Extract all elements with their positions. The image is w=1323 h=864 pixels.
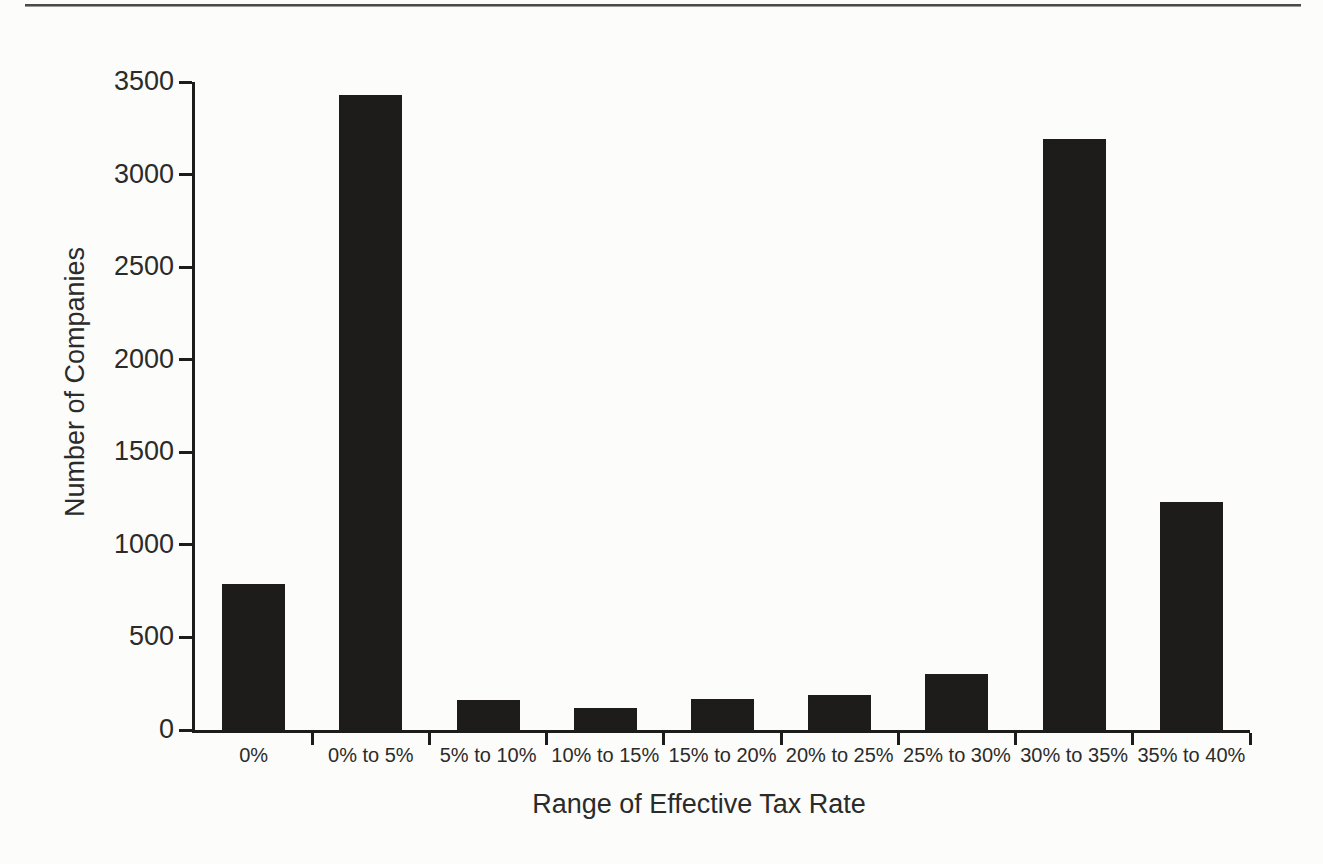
plot-area: 05001000150020002500300035000%0% to 5%5%… [192,82,1250,733]
bar-0% to 5% [339,95,402,730]
x-axis-title: Range of Effective Tax Rate [170,789,1228,820]
y-axis-tick-label: 3500 [114,68,174,95]
y-axis-tick-label: 0 [159,716,174,743]
y-axis-tick-label: 3000 [114,161,174,188]
bar-25% to 30% [925,674,988,730]
bar-15% to 20% [691,699,754,730]
y-axis-tick [179,636,192,639]
x-axis-category-label: 25% to 30% [903,744,1011,767]
y-axis-tick [179,173,192,176]
y-axis-tick [179,729,192,732]
x-axis-tick [1131,733,1134,745]
page-top-rule [25,4,1301,7]
bar-20% to 25% [808,695,871,730]
x-axis-tick [897,733,900,745]
y-axis-tick [179,543,192,546]
x-axis-tick [311,733,314,745]
bar-30% to 35% [1043,139,1106,730]
bar-10% to 15% [574,708,637,730]
y-axis-title: Number of Companies [60,247,91,517]
bar-0% [222,584,285,730]
x-axis-tick [428,733,431,745]
x-axis-category-label: 15% to 20% [669,744,777,767]
x-axis-tick [780,733,783,745]
x-axis-category-label: 30% to 35% [1020,744,1128,767]
y-axis-tick-label: 1500 [114,438,174,465]
y-axis-tick-label: 2000 [114,346,174,373]
x-axis-category-label: 0% to 5% [328,744,414,767]
x-axis-tick [1014,733,1017,745]
y-axis-tick [179,358,192,361]
x-axis-tick [662,733,665,745]
y-axis-tick [179,451,192,454]
x-axis-category-label: 20% to 25% [786,744,894,767]
x-axis-category-label: 0% [239,744,268,767]
y-axis-tick [179,266,192,269]
bar-35% to 40% [1160,502,1223,730]
y-axis-tick [179,81,192,84]
x-axis-category-label: 35% to 40% [1137,744,1245,767]
y-axis-tick-label: 1000 [114,531,174,558]
bar-5% to 10% [457,700,520,730]
y-axis-tick-label: 500 [129,623,174,650]
x-axis-tick [1249,733,1252,745]
x-axis-tick [545,733,548,745]
x-axis-category-label: 10% to 15% [551,744,659,767]
scanned-page: Number of Companies 05001000150020002500… [0,0,1323,864]
y-axis-tick-label: 2500 [114,253,174,280]
x-axis-category-label: 5% to 10% [440,744,537,767]
